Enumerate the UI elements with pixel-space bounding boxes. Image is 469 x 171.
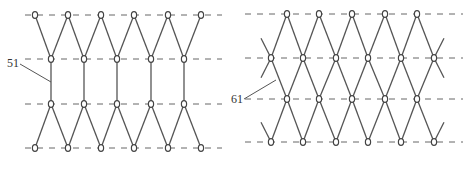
mesh-strand: [101, 15, 117, 59]
mesh-node-icon: [431, 55, 436, 62]
mesh-strand: [352, 14, 368, 58]
mesh-node-icon: [365, 55, 370, 62]
reference-label-51: 51: [7, 57, 19, 69]
mesh-strand: [368, 14, 385, 58]
mesh-node-icon: [131, 12, 136, 19]
mesh-strand: [151, 15, 168, 59]
mesh-node-icon: [32, 145, 37, 152]
mesh-strand: [287, 99, 303, 142]
mesh-strand: [35, 15, 51, 59]
mesh-strand: [368, 99, 385, 142]
mesh-strand: [101, 104, 117, 148]
mesh-strand: [51, 104, 68, 148]
mesh-strand: [287, 14, 303, 58]
mesh-node-icon: [349, 11, 354, 18]
mesh-node-icon: [284, 96, 289, 103]
mesh-strand: [385, 58, 401, 99]
mesh-node-icon: [148, 56, 153, 63]
mesh-node-icon: [414, 96, 419, 103]
mesh-strand: [336, 14, 352, 58]
label-leader-line: [244, 80, 276, 99]
mesh-node-icon: [131, 145, 136, 152]
mesh-node-icon: [165, 12, 170, 19]
mesh-node-icon: [32, 12, 37, 19]
mesh-node-icon: [268, 55, 273, 62]
right-mesh-figure: [244, 11, 463, 146]
mesh-node-icon: [198, 145, 203, 152]
mesh-strand: [385, 14, 401, 58]
mesh-node-icon: [365, 139, 370, 146]
mesh-node-icon: [98, 12, 103, 19]
mesh-strand: [417, 99, 434, 142]
mesh-strand: [134, 15, 151, 59]
mesh-node-icon: [316, 96, 321, 103]
mesh-node-icon: [165, 145, 170, 152]
mesh-strand: [303, 58, 319, 99]
mesh-node-icon: [398, 139, 403, 146]
mesh-node-icon: [98, 145, 103, 152]
mesh-node-icon: [114, 101, 119, 108]
mesh-node-icon: [414, 11, 419, 18]
mesh-node-icon: [268, 139, 273, 146]
mesh-strand: [168, 15, 184, 59]
mesh-strand: [84, 15, 101, 59]
mesh-node-icon: [114, 56, 119, 63]
mesh-node-icon: [48, 56, 53, 63]
mesh-node-icon: [382, 11, 387, 18]
mesh-strand: [271, 99, 287, 142]
mesh-strand: [336, 58, 352, 99]
mesh-strand: [184, 104, 201, 148]
left-mesh-figure: [20, 12, 222, 152]
mesh-diagram-canvas: [0, 0, 469, 171]
mesh-strand: [303, 14, 319, 58]
mesh-strand: [319, 14, 336, 58]
mesh-node-icon: [431, 139, 436, 146]
mesh-strand: [68, 15, 84, 59]
mesh-strand: [417, 58, 434, 99]
mesh-strand: [319, 58, 336, 99]
mesh-node-icon: [349, 96, 354, 103]
mesh-node-icon: [333, 55, 338, 62]
mesh-strand: [117, 104, 134, 148]
mesh-strand: [319, 99, 336, 142]
reference-label-61: 61: [231, 93, 243, 105]
mesh-strand: [336, 99, 352, 142]
mesh-node-icon: [300, 55, 305, 62]
mesh-node-icon: [333, 139, 338, 146]
mesh-strand: [352, 99, 368, 142]
mesh-strand: [35, 104, 51, 148]
mesh-strand: [401, 14, 417, 58]
mesh-node-icon: [284, 11, 289, 18]
mesh-strand: [117, 15, 134, 59]
mesh-strand: [51, 15, 68, 59]
mesh-strand: [68, 104, 84, 148]
mesh-node-icon: [316, 11, 321, 18]
mesh-node-icon: [65, 145, 70, 152]
mesh-node-icon: [65, 12, 70, 19]
mesh-strand: [401, 58, 417, 99]
mesh-strand: [401, 99, 417, 142]
mesh-strand: [134, 104, 151, 148]
mesh-strand: [168, 104, 184, 148]
mesh-node-icon: [382, 96, 387, 103]
mesh-strand: [271, 58, 287, 99]
mesh-strand: [271, 14, 287, 58]
mesh-node-icon: [148, 101, 153, 108]
mesh-strand: [287, 58, 303, 99]
mesh-strand: [84, 104, 101, 148]
mesh-node-icon: [181, 56, 186, 63]
mesh-node-icon: [300, 139, 305, 146]
mesh-strand: [151, 104, 168, 148]
mesh-strand: [352, 58, 368, 99]
mesh-strand: [368, 58, 385, 99]
mesh-node-icon: [81, 56, 86, 63]
mesh-node-icon: [198, 12, 203, 19]
mesh-strand: [184, 15, 201, 59]
mesh-node-icon: [81, 101, 86, 108]
mesh-node-icon: [48, 101, 53, 108]
label-leader-line: [20, 64, 51, 82]
mesh-node-icon: [181, 101, 186, 108]
mesh-strand: [303, 99, 319, 142]
mesh-strand: [417, 14, 434, 58]
mesh-node-icon: [398, 55, 403, 62]
